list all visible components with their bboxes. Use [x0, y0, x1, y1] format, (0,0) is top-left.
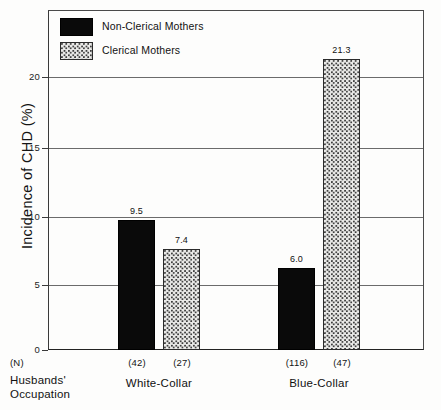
n-label-white-collar-clerical: (27)	[157, 357, 207, 368]
bar-value-blue-collar-clerical: 21.3	[318, 45, 365, 55]
legend-label-non-clerical: Non-Clerical Mothers	[102, 20, 204, 32]
bar-value-blue-collar-non-clerical: 6.0	[273, 254, 320, 264]
legend-swatch-solid	[60, 18, 93, 36]
bar-white-collar-clerical	[163, 249, 200, 350]
y-tick-label-20: 20	[0, 71, 40, 82]
n-label-blue-collar-non-clerical: (116)	[272, 357, 322, 368]
plot-area	[48, 10, 424, 350]
legend-label-clerical: Clerical Mothers	[102, 44, 180, 56]
bar-white-collar-non-clerical	[118, 220, 155, 350]
y-tick-label-5: 5	[0, 279, 40, 290]
bar-value-white-collar-clerical: 7.4	[158, 235, 205, 245]
n-label-white-collar-non-clerical: (42)	[112, 357, 162, 368]
n-label-blue-collar-clerical: (47)	[317, 357, 367, 368]
x-axis-title-line2: Occupation	[10, 387, 70, 401]
x-axis-title-line1: Husbands'	[10, 373, 70, 387]
y-tick-10: 10	[0, 211, 40, 223]
bar-value-white-collar-non-clerical: 9.5	[113, 206, 160, 216]
y-tick-0: 0	[0, 344, 40, 356]
y-tick-15: 15	[0, 142, 40, 154]
y-tick-5: 5	[0, 279, 40, 291]
x-axis-title: Husbands' Occupation	[10, 373, 70, 401]
group-label-white-collar: White-Collar	[99, 377, 219, 389]
y-tick-label-10: 10	[0, 211, 40, 222]
legend-swatch-hatched	[60, 42, 93, 60]
y-tick-label-0: 0	[0, 344, 40, 355]
y-tick-label-15: 15	[0, 142, 40, 153]
group-label-blue-collar: Blue-Collar	[259, 377, 379, 389]
y-tick-mark-0	[42, 350, 48, 351]
y-axis-title: Incidence of CHD (%)	[19, 51, 35, 301]
bar-blue-collar-clerical	[323, 59, 360, 350]
chart-figure: Incidence of CHD (%) 20 15 10 5 0 9.5 7.…	[0, 0, 441, 410]
n-row-key: (N)	[10, 357, 24, 368]
bar-blue-collar-non-clerical	[278, 268, 315, 350]
y-tick-20: 20	[0, 71, 40, 83]
